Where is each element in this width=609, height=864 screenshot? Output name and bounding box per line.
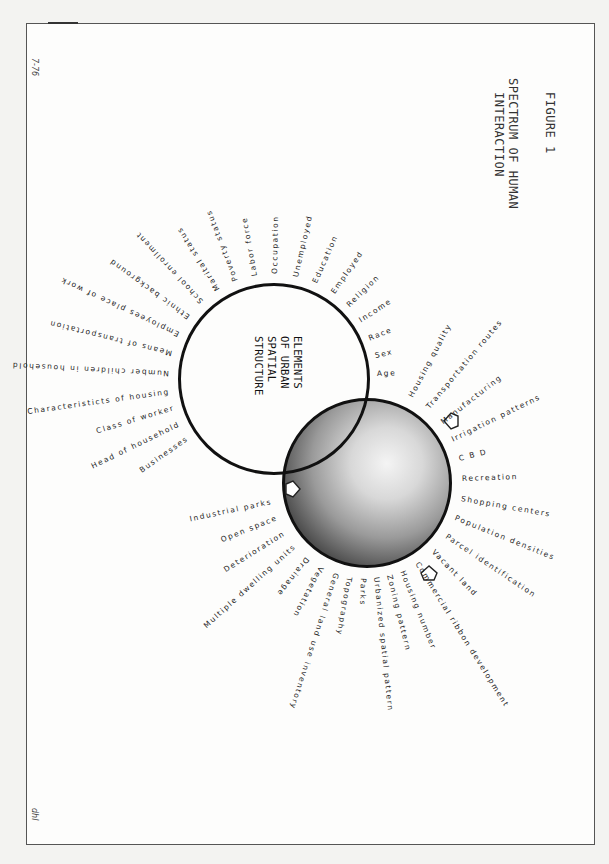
arrow-icon-industrial (282, 478, 304, 500)
label-parks: Parks (357, 578, 368, 606)
center-line4: STRUCTURE (252, 336, 265, 396)
date-code: 7-76 (30, 58, 39, 76)
frame-mark (48, 22, 78, 24)
label-recreation: Recreation (462, 472, 518, 484)
initials: dhl (30, 808, 39, 820)
center-line2: OF URBAN (278, 336, 291, 389)
figure-title-line1: SPECTRUM OF HUMAN (506, 78, 520, 209)
figure-title-line2: INTERACTION (492, 92, 506, 177)
center-line3: SPATIAL (265, 336, 278, 382)
label-occupation: Occupation (270, 215, 281, 274)
figure-label: FIGURE 1 (543, 92, 557, 154)
label-age: Age (377, 369, 397, 380)
center-line1: ELEMENTS (291, 336, 304, 389)
